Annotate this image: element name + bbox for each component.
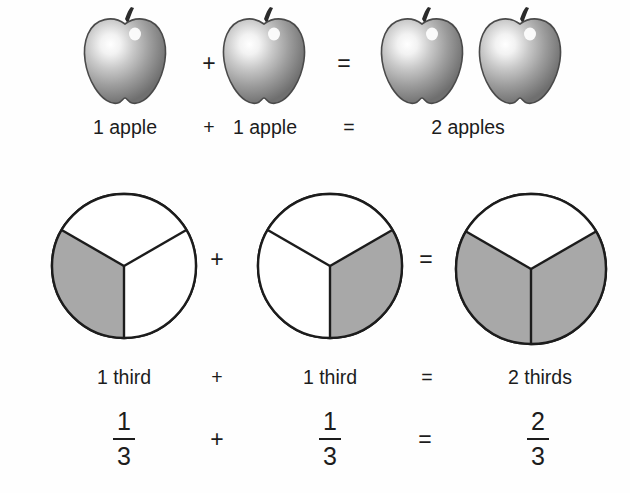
pie-chart-2	[254, 190, 406, 342]
pie-caption-middle: 1 third	[270, 368, 390, 388]
apple-equals-operator: =	[330, 52, 358, 75]
fraction-3-numerator: 2	[508, 408, 568, 435]
pie-equals-operator: =	[412, 248, 440, 271]
apple-caption-right: 2 apples	[398, 118, 538, 138]
apple-caption-left: 1 apple	[65, 118, 185, 138]
pie-caption-right: 2 thirds	[470, 368, 610, 388]
fraction-2-numerator: 1	[300, 408, 360, 435]
apple-graphic-3	[374, 6, 470, 114]
pie-chart-3	[452, 190, 610, 348]
apple-graphic-1	[77, 6, 173, 114]
apple-graphic-4	[472, 6, 568, 114]
pie-caption-equals: =	[403, 368, 451, 388]
pie-chart-1	[48, 190, 200, 342]
fraction-2: 1 3	[300, 408, 360, 470]
fraction-plus-operator: +	[196, 428, 238, 451]
pie-caption-plus: +	[193, 368, 241, 388]
apple-graphic-2	[216, 6, 312, 114]
fraction-2-bar	[319, 438, 341, 440]
pie-plus-operator: +	[203, 248, 231, 271]
pie-caption-left: 1 third	[64, 368, 184, 388]
fraction-1-numerator: 1	[94, 408, 154, 435]
apple-caption-equals: =	[325, 118, 373, 138]
diagram-canvas: + =	[0, 0, 630, 493]
fraction-equals-operator: =	[404, 428, 446, 451]
fraction-3: 2 3	[508, 408, 568, 470]
fraction-3-denominator: 3	[508, 443, 568, 470]
fraction-1: 1 3	[94, 408, 154, 470]
apple-caption-middle: 1 apple	[205, 118, 325, 138]
thirds-equation-row: + =	[0, 190, 630, 360]
fraction-3-bar	[527, 438, 549, 440]
fraction-1-denominator: 3	[94, 443, 154, 470]
fraction-1-bar	[113, 438, 135, 440]
fraction-2-denominator: 3	[300, 443, 360, 470]
